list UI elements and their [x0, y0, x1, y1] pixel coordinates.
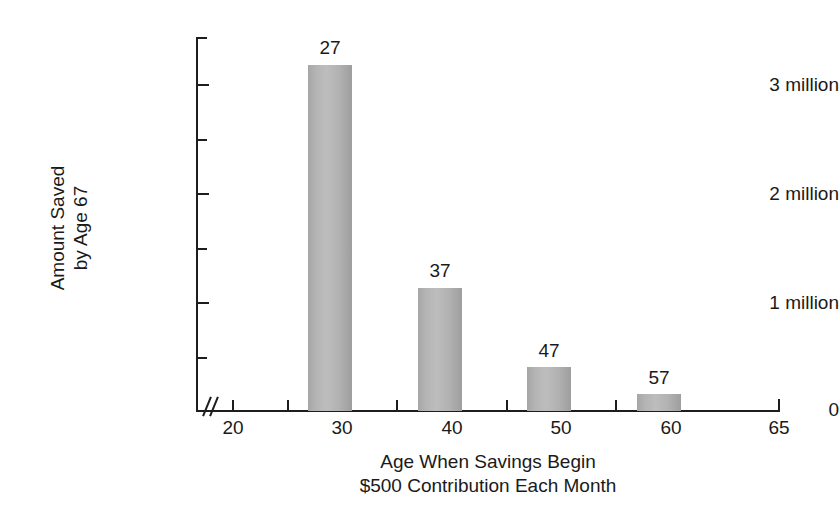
- x-tick-label-20: 20: [203, 417, 263, 438]
- y-tick-label-3m: 3 million: [656, 75, 839, 94]
- x-tick-55: [615, 400, 617, 411]
- bar-age-27: [308, 65, 352, 411]
- x-tick-35: [396, 400, 398, 411]
- y-tick-2m: [196, 193, 209, 195]
- y-tick-1-5m: [196, 248, 207, 250]
- bar-label-57: 57: [624, 368, 694, 388]
- x-axis-title: Age When Savings Begin $500 Contribution…: [196, 450, 780, 498]
- y-axis-line: [196, 37, 198, 412]
- x-axis-title-line-1: Age When Savings Begin: [196, 450, 780, 474]
- y-tick-label-1m: 1 million: [656, 293, 839, 312]
- axis-break-icon: [203, 396, 225, 418]
- y-tick-3m: [196, 84, 209, 86]
- bar-age-57: [637, 394, 681, 411]
- y-tick-0-5m: [196, 357, 207, 359]
- bar-label-47: 47: [514, 341, 584, 361]
- bar-chart-figure: 3 million 2 million 1 million 0 20 30 40…: [0, 0, 839, 518]
- y-tick-label-2m: 2 million: [656, 184, 839, 203]
- y-axis-title-line-2: by Age 67: [69, 118, 92, 338]
- y-tick-1m: [196, 302, 209, 304]
- bar-label-27: 27: [295, 38, 365, 58]
- x-tick-25: [287, 400, 289, 411]
- y-axis-title-line-1: Amount Saved: [46, 118, 69, 338]
- x-tick-45: [506, 400, 508, 411]
- x-tick-label-65: 65: [749, 417, 809, 438]
- y-axis-title: Amount Saved by Age 67: [46, 118, 92, 338]
- x-tick-label-40: 40: [422, 417, 482, 438]
- x-tick-20: [232, 400, 234, 411]
- bar-age-47: [527, 367, 571, 411]
- y-axis-top-cap: [196, 37, 207, 39]
- bar-age-37: [418, 288, 462, 411]
- x-tick-label-30: 30: [312, 417, 372, 438]
- bar-label-37: 37: [405, 261, 475, 281]
- x-tick-label-50: 50: [531, 417, 591, 438]
- x-tick-label-60: 60: [641, 417, 701, 438]
- y-tick-2-5m: [196, 139, 207, 141]
- x-axis-title-line-2: $500 Contribution Each Month: [196, 474, 780, 498]
